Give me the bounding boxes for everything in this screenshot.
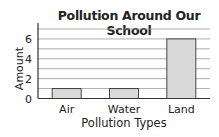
y-tick-label: 0	[25, 93, 32, 106]
bar-air	[52, 89, 81, 99]
y-tick-label: 6	[25, 33, 32, 46]
x-tick-label: Air	[59, 103, 75, 116]
bar-land	[167, 39, 196, 99]
x-tick-label: Land	[168, 103, 195, 116]
bar-chart-plot: 0246AirWaterLand	[0, 0, 219, 137]
y-tick-label: 2	[25, 73, 32, 86]
y-tick-label: 4	[25, 53, 32, 66]
x-tick-label: Water	[108, 103, 141, 116]
bar-water	[110, 89, 139, 99]
